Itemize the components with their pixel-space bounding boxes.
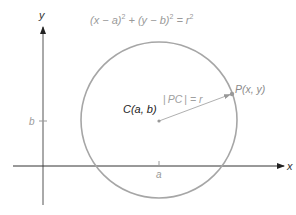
center-point xyxy=(157,119,160,122)
point-p xyxy=(230,92,234,96)
radius-label: |PC| = r xyxy=(163,93,203,105)
y-tick-label-b: b xyxy=(29,116,35,127)
y-axis-label: y xyxy=(38,9,46,21)
x-tick-label-a: a xyxy=(156,169,162,180)
equation-part-2: + (y − b) xyxy=(125,14,169,26)
radius-label-text: PC xyxy=(168,93,183,105)
center-label: C(a, b) xyxy=(123,103,157,115)
equation-part-3: = r xyxy=(173,14,191,26)
circle-equation-diagram: y x b a C(a, b) P(x, y) |PC| = r (x − a)… xyxy=(0,0,296,215)
equation-exp-3: 2 xyxy=(190,13,194,20)
radius-label-eq: = r xyxy=(187,93,203,105)
radius-label-bar-left: | xyxy=(163,93,166,105)
equation-part-1: (x − a) xyxy=(90,14,122,26)
circle-equation: (x − a)2 + (y − b)2 = r2 xyxy=(90,13,194,26)
point-p-label: P(x, y) xyxy=(235,83,265,95)
x-axis-label: x xyxy=(286,160,293,172)
